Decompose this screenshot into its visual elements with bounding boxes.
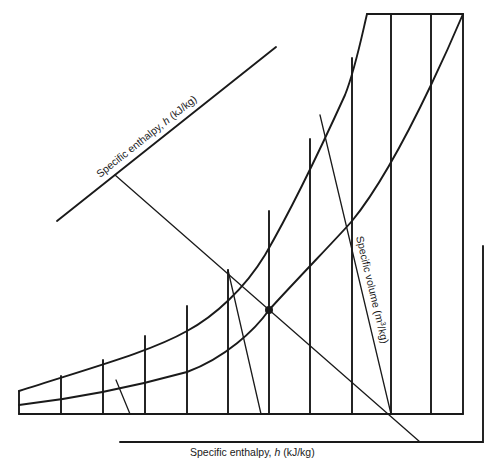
specific-volume-line-small: [116, 380, 130, 414]
specific-volume-line-mid: [228, 270, 261, 414]
saturation-curve: [19, 14, 367, 391]
label-suffix: (kJ/kg): [164, 93, 198, 124]
enthalpy-diagonal-label: Specific enthalpy, h (kJ/kg): [94, 93, 199, 180]
enthalpy-bottom-label: Specific enthalpy, h (kJ/kg): [190, 446, 315, 458]
psychrometric-diagram: Specific enthalpy, h (kJ/kg) Specific en…: [0, 0, 495, 475]
label-suffix: /kg): [376, 325, 392, 345]
state-point-marker: [265, 306, 273, 314]
enthalpy-diagonal-axis: [57, 47, 276, 221]
label-suffix: (kJ/kg): [280, 446, 314, 458]
label-prefix: Specific enthalpy,: [94, 118, 168, 180]
specific-volume-line-main: [320, 115, 391, 414]
label-prefix: Specific enthalpy,: [190, 446, 274, 458]
dry-bulb-lines: [61, 14, 431, 414]
relative-humidity-curve: [19, 14, 463, 405]
specific-volume-label: Specific volume (m3/kg): [354, 235, 391, 345]
